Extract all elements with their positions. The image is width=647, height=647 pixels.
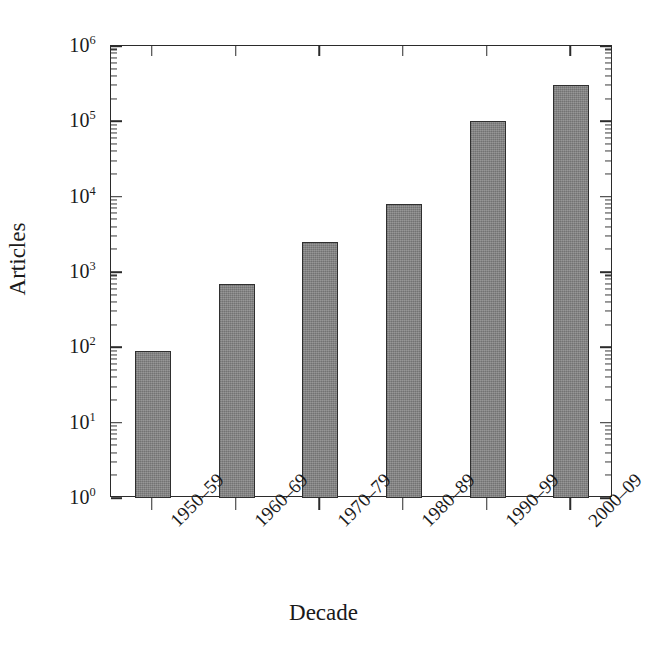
plot-area bbox=[110, 45, 612, 497]
x-axis-tick-top bbox=[486, 45, 488, 56]
y-minor-tick bbox=[111, 275, 117, 276]
y-minor-tick bbox=[605, 399, 611, 400]
y-minor-tick bbox=[605, 151, 611, 152]
y-minor-tick bbox=[605, 49, 611, 50]
y-minor-tick bbox=[605, 324, 611, 325]
y-minor-tick bbox=[111, 75, 117, 76]
y-major-tick bbox=[111, 497, 122, 499]
y-minor-tick bbox=[111, 445, 117, 446]
y-minor-tick bbox=[605, 294, 611, 295]
y-minor-tick bbox=[605, 128, 611, 129]
x-axis-tick bbox=[402, 497, 404, 510]
bar bbox=[219, 284, 255, 498]
y-minor-tick bbox=[605, 57, 611, 58]
x-tick-label: 1960–69 bbox=[250, 516, 266, 532]
y-minor-tick bbox=[111, 358, 117, 359]
y-minor-tick bbox=[605, 426, 611, 427]
y-minor-tick bbox=[605, 226, 611, 227]
y-minor-tick bbox=[605, 429, 611, 430]
x-axis-tick bbox=[235, 497, 237, 510]
bar bbox=[470, 121, 506, 498]
y-minor-tick bbox=[111, 226, 117, 227]
y-minor-tick bbox=[605, 200, 611, 201]
y-minor-tick bbox=[605, 475, 611, 476]
x-axis-tick bbox=[318, 497, 320, 510]
y-minor-tick bbox=[605, 439, 611, 440]
y-major-tick bbox=[111, 196, 122, 198]
y-minor-tick bbox=[111, 85, 117, 86]
y-minor-tick bbox=[605, 98, 611, 99]
y-minor-tick bbox=[111, 386, 117, 387]
y-minor-tick bbox=[605, 358, 611, 359]
y-tick-label-1e0: 100 bbox=[69, 487, 96, 507]
y-tick-label-1e6: 106 bbox=[69, 35, 96, 55]
y-minor-tick bbox=[605, 249, 611, 250]
x-axis-tick-top bbox=[402, 45, 404, 56]
y-minor-tick bbox=[111, 128, 117, 129]
y-minor-tick bbox=[605, 301, 611, 302]
y-minor-tick bbox=[605, 85, 611, 86]
bar-chart-figure: 100101102103104105106 1950–591960–691970… bbox=[0, 0, 647, 647]
y-major-tick bbox=[111, 271, 122, 273]
y-minor-tick bbox=[605, 208, 611, 209]
y-minor-tick bbox=[111, 426, 117, 427]
bar bbox=[135, 351, 171, 498]
y-minor-tick bbox=[605, 350, 611, 351]
y-major-tick bbox=[600, 422, 611, 424]
y-major-tick bbox=[111, 422, 122, 424]
y-minor-tick bbox=[605, 377, 611, 378]
y-major-tick bbox=[600, 347, 611, 349]
x-axis-tick-top bbox=[569, 45, 571, 56]
y-minor-tick bbox=[605, 143, 611, 144]
x-axis-tick bbox=[569, 497, 571, 510]
y-minor-tick bbox=[605, 386, 611, 387]
y-minor-tick bbox=[111, 452, 117, 453]
y-minor-tick bbox=[605, 137, 611, 138]
x-axis-tick bbox=[151, 497, 153, 510]
x-axis-title: Decade bbox=[0, 600, 647, 626]
y-minor-tick bbox=[605, 203, 611, 204]
y-minor-tick bbox=[111, 434, 117, 435]
y-axis-title: Articles bbox=[5, 179, 31, 339]
x-axis-tick bbox=[486, 497, 488, 510]
y-minor-tick bbox=[605, 445, 611, 446]
y-minor-tick bbox=[605, 53, 611, 54]
y-minor-tick bbox=[111, 208, 117, 209]
y-minor-tick bbox=[111, 236, 117, 237]
y-minor-tick bbox=[605, 68, 611, 69]
y-minor-tick bbox=[605, 275, 611, 276]
y-minor-tick bbox=[605, 132, 611, 133]
y-major-tick bbox=[600, 45, 611, 47]
y-minor-tick bbox=[111, 57, 117, 58]
y-major-tick bbox=[600, 196, 611, 198]
y-minor-tick bbox=[605, 160, 611, 161]
y-minor-tick bbox=[111, 288, 117, 289]
y-minor-tick bbox=[111, 377, 117, 378]
x-tick-label: 2000–09 bbox=[584, 516, 600, 532]
y-minor-tick bbox=[605, 434, 611, 435]
y-tick-label-1e1: 101 bbox=[69, 412, 96, 432]
y-minor-tick bbox=[111, 62, 117, 63]
y-minor-tick bbox=[605, 75, 611, 76]
y-major-tick bbox=[600, 271, 611, 273]
y-minor-tick bbox=[605, 354, 611, 355]
y-minor-tick bbox=[111, 132, 117, 133]
y-minor-tick bbox=[111, 439, 117, 440]
y-minor-tick bbox=[111, 49, 117, 50]
y-minor-tick bbox=[111, 301, 117, 302]
y-minor-tick bbox=[111, 160, 117, 161]
y-minor-tick bbox=[605, 236, 611, 237]
y-minor-tick bbox=[605, 213, 611, 214]
y-tick-label-1e5: 105 bbox=[69, 110, 96, 130]
y-minor-tick bbox=[111, 311, 117, 312]
y-minor-tick bbox=[111, 219, 117, 220]
x-axis-tick-top bbox=[235, 45, 237, 56]
y-minor-tick bbox=[111, 203, 117, 204]
bar bbox=[386, 204, 422, 498]
y-major-tick bbox=[111, 45, 122, 47]
y-minor-tick bbox=[111, 143, 117, 144]
y-minor-tick bbox=[605, 124, 611, 125]
y-minor-tick bbox=[111, 324, 117, 325]
y-minor-tick bbox=[111, 363, 117, 364]
y-minor-tick bbox=[111, 213, 117, 214]
